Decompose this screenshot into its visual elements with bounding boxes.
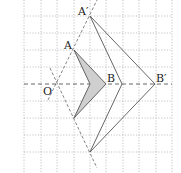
label-B: B	[107, 72, 115, 85]
label-A: A	[63, 39, 73, 52]
label-O: O	[43, 85, 52, 98]
label-A-prime: A′	[77, 5, 89, 18]
label-B-prime: B′	[156, 72, 167, 85]
diagram-canvas: O A A′ B B′	[0, 0, 181, 173]
original-shape	[74, 50, 106, 118]
